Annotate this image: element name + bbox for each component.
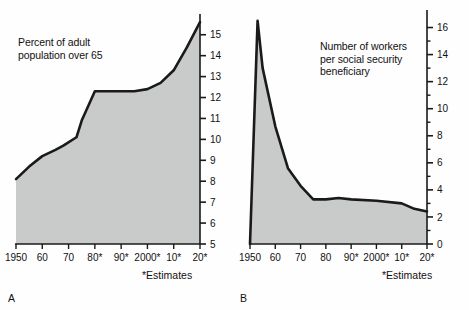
x-tick-label: 70 xyxy=(295,252,307,263)
y-tick-label: 5 xyxy=(210,239,216,250)
x-tick-label: 10* xyxy=(166,252,181,263)
y-tick-label: 12 xyxy=(437,76,449,87)
x-tick-label: 90* xyxy=(344,252,359,263)
x-tick-label: 60 xyxy=(270,252,282,263)
x-tick-label: 70 xyxy=(63,252,75,263)
panel-letter-b: B xyxy=(240,292,247,304)
estimates-note-b: *Estimates xyxy=(382,269,432,281)
y-tick-label: 6 xyxy=(437,157,443,168)
y-tick-label: 6 xyxy=(210,218,216,229)
x-tick-label: 20* xyxy=(192,252,207,263)
y-tick-label: 8 xyxy=(437,130,443,141)
y-tick-label: 13 xyxy=(210,71,222,82)
y-tick-label: 2 xyxy=(437,212,443,223)
x-tick-label: 2000* xyxy=(134,252,160,263)
y-tick-label: 4 xyxy=(437,184,443,195)
y-tick-label: 10 xyxy=(210,134,222,145)
y-tick-label: 8 xyxy=(210,176,216,187)
chart-caption-b: Number of workers per social security be… xyxy=(320,40,440,78)
y-tick-label: 0 xyxy=(437,239,443,250)
y-tick-label: 7 xyxy=(210,197,216,208)
y-tick-label: 16 xyxy=(437,22,449,33)
x-tick-label: 80* xyxy=(87,252,102,263)
chart-caption-a: Percent of adult population over 65 xyxy=(18,36,148,61)
y-tick-label: 11 xyxy=(210,113,221,124)
y-tick-label: 12 xyxy=(210,92,222,103)
x-tick-label: 10* xyxy=(394,252,409,263)
y-tick-label: 15 xyxy=(210,29,222,40)
chart-panel-a: 567891011121314151950607080*90*2000*10*2… xyxy=(0,0,232,310)
x-tick-label: 20* xyxy=(419,252,434,263)
x-tick-label: 2000* xyxy=(363,252,389,263)
x-tick-label: 80 xyxy=(320,252,332,263)
figure-root: 567891011121314151950607080*90*2000*10*2… xyxy=(0,0,469,310)
x-tick-label: 1950 xyxy=(239,252,262,263)
x-tick-label: 90* xyxy=(114,252,129,263)
chart-panel-b: 0246810121416195060708090*2000*10*20* Nu… xyxy=(232,0,469,310)
y-tick-label: 14 xyxy=(210,50,222,61)
y-tick-label: 9 xyxy=(210,155,216,166)
panel-letter-a: A xyxy=(8,292,15,304)
x-tick-label: 1950 xyxy=(5,252,28,263)
x-tick-label: 60 xyxy=(37,252,49,263)
estimates-note-a: *Estimates xyxy=(142,269,192,281)
y-tick-label: 10 xyxy=(437,103,449,114)
